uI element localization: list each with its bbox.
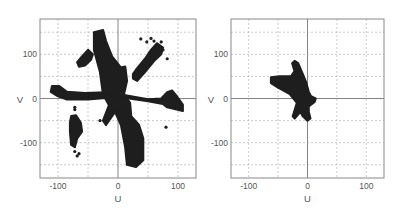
east-arm-region: [124, 91, 183, 111]
right-x-tick-0: 0: [305, 181, 310, 191]
nw-cluster-region: [77, 50, 93, 67]
data-point: [160, 40, 163, 43]
right-y-tick-100: 100: [214, 49, 228, 59]
data-point: [155, 44, 158, 47]
data-point: [73, 106, 76, 109]
data-point: [145, 40, 148, 43]
data-point: [149, 37, 152, 40]
data-point: [73, 150, 76, 153]
left-uv-plot: -100 0 100 100 0 -100 U V: [17, 19, 196, 204]
data-point: [161, 48, 164, 51]
data-point: [98, 119, 101, 122]
left-y-axis-label: V: [17, 94, 24, 105]
data-point: [139, 37, 142, 40]
left-y-tick-100: 100: [23, 49, 37, 59]
data-point: [166, 57, 169, 60]
data-point: [152, 39, 155, 42]
left-x-tick-0: 0: [116, 181, 121, 191]
data-point: [77, 152, 80, 155]
left-y-tick-0: 0: [32, 94, 37, 104]
left-scatter-data: [51, 30, 183, 167]
left-y-tick-neg100: -100: [20, 138, 37, 148]
sw-cluster-region: [70, 115, 82, 147]
left-x-axis-label: U: [115, 193, 122, 204]
left-x-tick-100: 100: [171, 181, 185, 191]
right-x-tick-neg100: -100: [240, 181, 257, 191]
west-arm-region: [51, 86, 109, 99]
right-y-tick-0: 0: [223, 94, 228, 104]
right-x-tick-100: 100: [359, 181, 373, 191]
right-scatter-data: [271, 61, 316, 121]
right-x-axis-label: U: [304, 193, 311, 204]
left-x-tick-neg100: -100: [49, 181, 66, 191]
right-y-tick-neg100: -100: [211, 138, 228, 148]
central-blob-region: [271, 61, 316, 121]
right-y-axis-label: V: [208, 94, 215, 105]
data-point: [164, 126, 167, 129]
uv-coverage-figure: -100 0 100 100 0 -100 U V -100 0 100 100…: [0, 0, 399, 208]
right-uv-plot: -100 0 100 100 0 -100 U V: [208, 19, 384, 204]
